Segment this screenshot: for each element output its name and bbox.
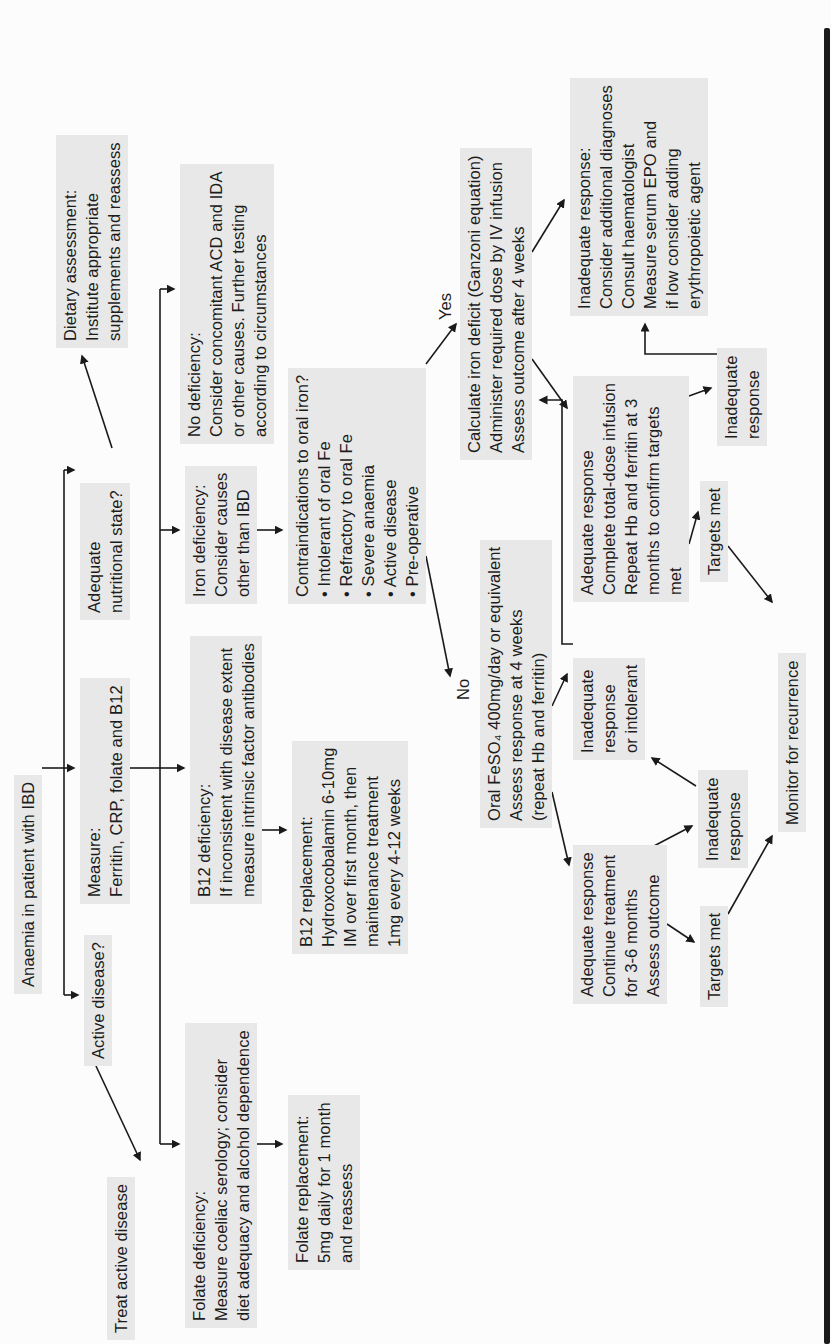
node-measure: Measure: Ferritin, CRP, folate and B12: [80, 678, 130, 904]
connector-line: [426, 556, 450, 676]
connector-line: [426, 324, 456, 364]
connector-line: [82, 356, 112, 448]
node-big-inadequate: Inadequate response: Consider additional…: [570, 78, 708, 316]
connector-line: [689, 512, 698, 544]
node-no-def: No deficiency: Consider concomitant ACD …: [180, 165, 274, 445]
scanned-page: Anaemia in patient with IBDActive diseas…: [0, 0, 831, 1344]
connector-line: [552, 792, 569, 865]
connector-line: [645, 324, 717, 354]
connector-line: [728, 546, 772, 602]
label-yes: Yes: [434, 293, 456, 320]
node-adequate-continue: Adequate response Continue treatment for…: [573, 845, 667, 1004]
node-targets-left: Targets met: [700, 906, 728, 1007]
page-edge-bar: [824, 28, 830, 1344]
node-monitor: Monitor for recurrence: [778, 653, 806, 832]
connector-line: [532, 200, 564, 252]
node-targets-right: Targets met: [700, 481, 728, 582]
label-no: No: [452, 679, 474, 700]
node-b12-repl: B12 replacement: Hydroxocobalamin 6-10mg…: [292, 741, 408, 954]
connector-line: [652, 758, 696, 786]
node-iron-def: Iron deficiency: Consider causes other t…: [185, 466, 257, 604]
node-folate-def: Folate deficiency: Measure coeliac serol…: [185, 1023, 257, 1328]
node-active: Active disease?: [84, 935, 112, 1066]
connector-line: [96, 1066, 140, 1160]
connector-line: [552, 674, 567, 706]
node-adequate-nutritional: Adequate nutritional state?: [80, 483, 130, 620]
node-or-intolerant: Inadequate response or intolerant: [573, 658, 645, 760]
node-b12-def: B12 deficiency: If inconsistent with dis…: [190, 636, 262, 904]
node-dietary: Dietary assessment: Institute appropriat…: [56, 135, 128, 348]
connector-line: [652, 826, 692, 847]
node-calculate: Calculate iron deficit (Ganzoni equation…: [460, 148, 532, 460]
node-anaemia: Anaemia in patient with IBD: [14, 775, 42, 994]
node-contra: Contraindications to oral iron? • Intole…: [288, 368, 426, 604]
node-adequate-total: Adequate response Complete total-dose in…: [573, 376, 689, 602]
node-treat: Treat active disease: [107, 1177, 135, 1340]
node-oral: Oral FeSO₄ 400mg/day or equivalent Asses…: [480, 540, 552, 828]
flowchart: Anaemia in patient with IBDActive diseas…: [0, 0, 831, 1344]
node-folate-repl: Folate replacement: 5mg daily for 1 mont…: [288, 1095, 360, 1270]
connector-line: [689, 388, 711, 396]
connector-line: [667, 924, 694, 942]
node-inadequate-right: Inadequate response: [717, 348, 767, 446]
node-inadequate-left: Inadequate response: [698, 770, 748, 868]
